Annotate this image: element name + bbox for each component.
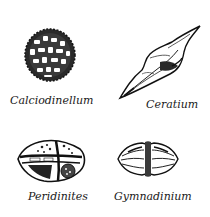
calciodinellum-label: Calciodinellum xyxy=(10,94,94,107)
gymnadinium-label: Gymnadinium xyxy=(114,190,192,203)
gymnadinium-drawing xyxy=(116,138,180,180)
peridinites-label: Peridinites xyxy=(28,190,88,203)
dinoflagellate-illustration: Calciodinellum Ceratium Peridinites xyxy=(0,0,210,217)
ceratium-label: Ceratium xyxy=(146,98,198,111)
peridinites-drawing xyxy=(14,135,88,185)
calciodinellum-drawing xyxy=(22,26,78,84)
ceratium-drawing xyxy=(112,12,206,102)
